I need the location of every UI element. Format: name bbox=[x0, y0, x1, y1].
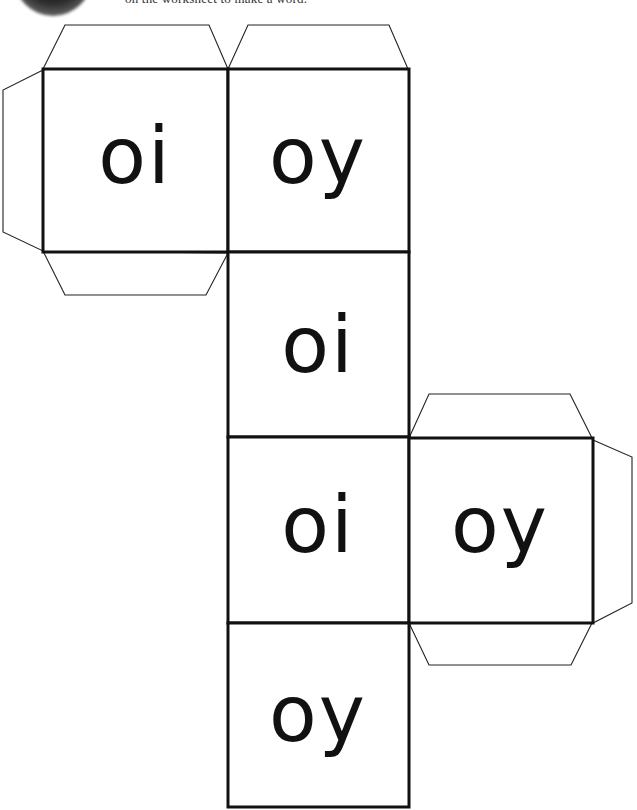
face-middle-2: oi bbox=[228, 437, 409, 623]
flap-top-right bbox=[228, 25, 408, 69]
face-top-right: oy bbox=[228, 69, 409, 252]
flap-top-left bbox=[43, 25, 228, 69]
face-middle-1: oi bbox=[228, 252, 409, 437]
cube-net: oi oy oi oi oy oy bbox=[0, 0, 637, 810]
face-side-right: oy bbox=[409, 438, 593, 623]
face-bottom: oy bbox=[228, 623, 409, 807]
flap-left bbox=[3, 70, 43, 251]
face-label: oy bbox=[269, 111, 367, 201]
face-label: oi bbox=[98, 111, 171, 201]
face-label: oi bbox=[281, 480, 354, 570]
flap-bottom-left bbox=[43, 251, 228, 295]
face-label: oy bbox=[269, 669, 367, 759]
face-label: oi bbox=[281, 300, 354, 390]
face-label: oy bbox=[451, 480, 549, 570]
flap-side-top bbox=[409, 394, 592, 438]
flap-side-bottom bbox=[409, 623, 592, 665]
flap-side-right bbox=[593, 440, 632, 623]
face-top-left: oi bbox=[43, 69, 228, 252]
